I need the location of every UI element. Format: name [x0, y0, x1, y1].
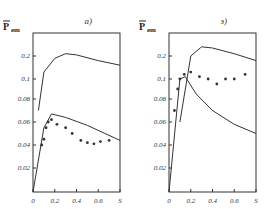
- data-point: [178, 78, 181, 81]
- panel-title: з): [220, 16, 228, 26]
- data-point: [47, 121, 50, 124]
- data-point: [99, 140, 102, 143]
- data-point: [64, 126, 67, 129]
- data-point: [173, 109, 176, 112]
- x-tick-label: 0: [31, 197, 35, 205]
- y-tick-label: 0.2: [21, 52, 30, 60]
- y-tick-label: 0.04: [18, 141, 31, 149]
- data-point: [45, 126, 48, 129]
- data-point: [79, 139, 82, 142]
- x-tick-label: 0.6: [230, 197, 239, 205]
- y-tick-label: 0.06: [154, 118, 167, 126]
- y-tick-label: 0.1: [21, 75, 30, 83]
- y-axis-label-subscript: em: [147, 26, 156, 34]
- panel-z: з)Pem0.020.040.060.080.10.200.20.40.6S: [136, 0, 272, 209]
- y-tick-label: 0.02: [18, 164, 31, 172]
- data-point: [40, 144, 43, 147]
- y-tick-label: 0.04: [154, 141, 167, 149]
- x-axis-label: S: [118, 197, 122, 205]
- data-point: [224, 78, 227, 81]
- data-point: [183, 73, 186, 76]
- x-tick-label: 0: [167, 197, 171, 205]
- curve: [169, 77, 256, 192]
- data-point: [207, 78, 210, 81]
- x-tick-label: 0.2: [50, 197, 59, 205]
- y-axis-label: P: [139, 21, 145, 32]
- x-tick-label: 0.2: [186, 197, 195, 205]
- data-point: [215, 83, 218, 86]
- x-tick-label: 0.6: [94, 197, 103, 205]
- panel-a: a)Pem0.020.040.060.080.10.200.20.40.6S: [0, 0, 136, 209]
- x-tick-label: 0.4: [72, 197, 81, 205]
- data-point: [233, 78, 236, 81]
- curve: [33, 114, 120, 192]
- data-point: [93, 142, 96, 145]
- y-tick-label: 0.08: [18, 95, 31, 103]
- data-point: [71, 132, 74, 135]
- y-tick-label: 0.06: [18, 118, 31, 126]
- chart-z: з)Pem0.020.040.060.080.10.200.20.40.6S: [136, 0, 272, 209]
- y-tick-label: 0.02: [154, 164, 167, 172]
- chart-a: a)Pem0.020.040.060.080.10.200.20.40.6S: [0, 0, 136, 209]
- data-point: [198, 75, 201, 78]
- y-axis-label-subscript: em: [11, 26, 20, 34]
- y-tick-label: 0.2: [157, 52, 166, 60]
- x-axis-label: S: [254, 197, 258, 205]
- plot-frame: [33, 33, 120, 192]
- curve: [38, 54, 120, 111]
- y-axis-label: P: [3, 21, 9, 32]
- y-tick-label: 0.1: [157, 75, 166, 83]
- panel-title: a): [85, 16, 93, 26]
- data-point: [108, 139, 111, 142]
- data-point: [56, 123, 59, 126]
- data-point: [244, 73, 247, 76]
- y-tick-label: 0.08: [154, 95, 167, 103]
- data-point: [86, 141, 89, 144]
- data-point: [42, 138, 45, 141]
- x-tick-label: 0.4: [208, 197, 217, 205]
- data-point: [189, 71, 192, 74]
- data-point: [50, 118, 53, 121]
- data-point: [176, 88, 179, 91]
